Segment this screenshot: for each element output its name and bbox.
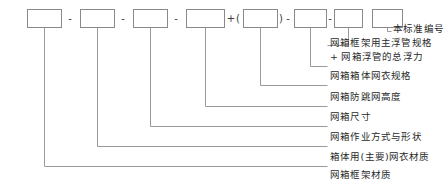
code-box-4[interactable] — [187, 10, 225, 28]
separator-sep-4: + — [227, 13, 235, 24]
leader-line-8 — [45, 27, 328, 167]
leader-line-7 — [98, 27, 328, 147]
code-box-2[interactable] — [81, 10, 115, 28]
code-box-3[interactable] — [134, 10, 168, 28]
leader-line-4 — [261, 27, 328, 86]
leader-line-5 — [206, 27, 328, 107]
diagram-canvas: ---+()-- — [0, 0, 445, 190]
leader-lines — [45, 27, 392, 167]
leader-line-6 — [151, 27, 328, 127]
separator-sep-5: - — [286, 13, 290, 24]
separator-sep-6: - — [328, 13, 332, 24]
code-box-6[interactable] — [295, 10, 327, 28]
code-box-7[interactable] — [335, 10, 363, 28]
separator-sep-2: - — [121, 13, 125, 24]
leader-line-2 — [328, 27, 349, 46]
separator-sep-3: - — [174, 13, 178, 24]
code-boxes — [28, 10, 403, 28]
code-box-5[interactable] — [244, 10, 278, 28]
separator-paren-open: ( — [236, 13, 240, 24]
separator-sep-1: - — [68, 13, 72, 24]
designation-diagram: ---+()-- 本标准编号网箱框架用主浮管规格+ 网箱浮管的总浮力网箱箱体网衣… — [0, 0, 445, 190]
code-box-8[interactable] — [373, 10, 403, 28]
separator-paren-close: ) — [279, 13, 283, 24]
code-box-1[interactable] — [28, 10, 62, 28]
leader-line-3 — [311, 27, 328, 67]
